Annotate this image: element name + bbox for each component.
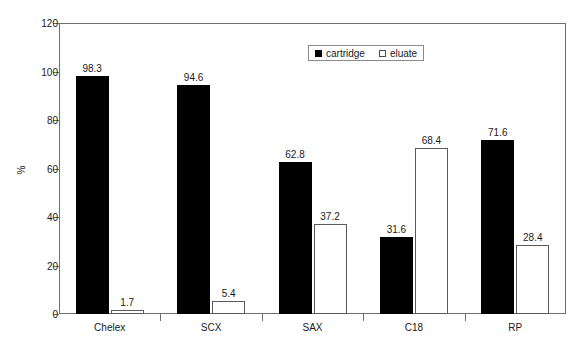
y-tick-label: 20 [18,260,58,271]
legend-label-eluate: eluate [390,48,417,59]
chart-legend: cartridge eluate [308,45,424,61]
y-tick-label: 60 [18,163,58,174]
bar-value-label: 5.4 [222,288,236,299]
x-tick-label-chelex: Chelex [94,322,125,333]
x-tick-label-scx: SCX [201,322,222,333]
bar-chelex-cartridge [76,76,109,314]
bar-scx-cartridge [177,85,210,314]
bar-value-label: 37.2 [320,211,339,222]
y-tick-label: 120 [18,18,58,29]
x-tickmark [160,314,161,321]
bar-chart: % 020406080100120 98.31.794.65.462.837.2… [0,0,582,350]
bar-value-label: 28.4 [523,232,542,243]
x-tick-label-rp: RP [508,322,522,333]
y-tick-label: 100 [18,66,58,77]
x-tickmark [262,314,263,321]
x-tickmark [363,314,364,321]
bar-sax-eluate [314,224,347,314]
bar-value-label: 68.4 [422,135,441,146]
legend-label-cartridge: cartridge [326,48,365,59]
x-tick-label-sax: SAX [302,322,322,333]
legend-entry-cartridge: cartridge [315,48,365,59]
bar-value-label: 31.6 [387,224,406,235]
bar-value-label: 94.6 [184,72,203,83]
bar-c18-eluate [415,148,448,314]
bar-value-label: 62.8 [285,149,304,160]
bar-value-label: 1.7 [120,297,134,308]
bar-rp-eluate [516,245,549,314]
bar-rp-cartridge [481,140,514,314]
bar-scx-eluate [212,301,245,314]
x-tick-label-c18: C18 [405,322,423,333]
bar-sax-cartridge [279,162,312,314]
bar-c18-cartridge [380,237,413,314]
bar-chelex-eluate [111,310,144,314]
y-tick-label: 40 [18,212,58,223]
legend-entry-eluate: eluate [379,48,417,59]
y-tick-label: 0 [18,309,58,320]
y-tick-label: 80 [18,115,58,126]
bar-value-label: 71.6 [488,127,507,138]
filled-square-icon [315,50,322,57]
x-tickmark [465,314,466,321]
hollow-square-icon [379,50,386,57]
bar-value-label: 98.3 [82,63,101,74]
